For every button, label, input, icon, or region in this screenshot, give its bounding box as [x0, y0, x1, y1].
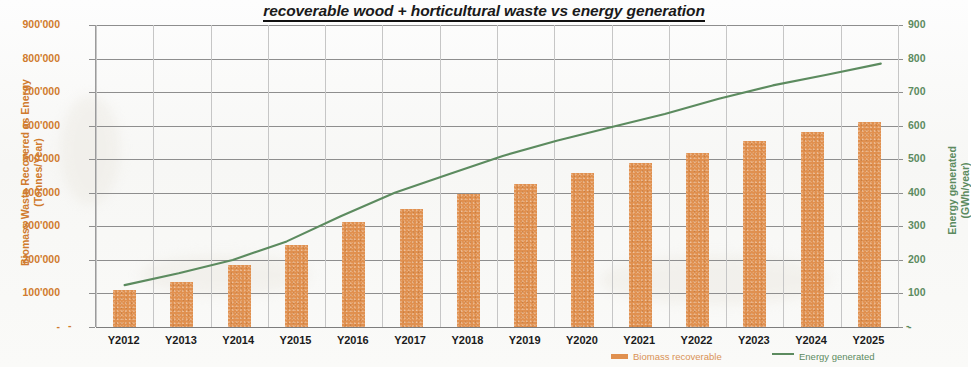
y-axis-left-tick-label: 800'000 — [22, 52, 60, 64]
plot-area — [95, 25, 899, 327]
bar-Y2019 — [514, 184, 537, 327]
y-axis-left-tick-mark — [89, 327, 95, 328]
x-axis-label-Y2024: Y2024 — [795, 334, 827, 346]
y-axis-right-tick-label: 800 — [908, 52, 926, 64]
bar-Y2013 — [170, 282, 193, 327]
y-axis-right-title-line1: Energy generated — [946, 146, 958, 235]
legend-swatch-line-icon — [772, 353, 794, 355]
y-axis-left-tick-label: 600'000 — [22, 119, 60, 131]
bar-Y2014 — [228, 265, 251, 327]
legend-swatch-bar-icon — [611, 354, 628, 359]
bar-Y2016 — [342, 222, 365, 327]
y-axis-right-zero-dash: - — [906, 319, 910, 331]
x-axis-label-Y2019: Y2019 — [509, 334, 541, 346]
y-axis-left-tick-label: 700'000 — [22, 85, 60, 97]
y-axis-left-tick-label: 400'000 — [22, 186, 60, 198]
y-axis-left-zero-dash: - — [68, 319, 72, 331]
bar-Y2020 — [571, 173, 594, 327]
y-axis-right-tick-label: 700 — [908, 85, 926, 97]
y-axis-left-tick-label: 100'000 — [22, 286, 60, 298]
y-axis-left-tick-label: 500'000 — [22, 152, 60, 164]
x-axis-label-Y2014: Y2014 — [222, 334, 254, 346]
chart-legend: Biomass recoverable Energy generated — [0, 350, 968, 364]
legend-label-energy: Energy generated — [799, 351, 875, 362]
y-axis-right-tick-label: 900 — [908, 18, 926, 30]
y-axis-right-tick-label: 100 — [908, 286, 926, 298]
y-axis-right-tick-mark — [897, 327, 903, 328]
legend-label-biomass: Biomass recoverable — [633, 351, 722, 362]
y-axis-left-tick-label: - — [57, 320, 61, 332]
chart-title: recoverable wood + horticultural waste v… — [0, 2, 968, 20]
y-axis-right-title-line2: (GWh/year) — [958, 106, 971, 276]
x-axis-label-Y2016: Y2016 — [337, 334, 369, 346]
y-axis-right-tick-label: 300 — [908, 219, 926, 231]
x-axis-label-Y2015: Y2015 — [280, 334, 312, 346]
x-axis-label-Y2025: Y2025 — [852, 334, 884, 346]
bar-Y2012 — [113, 290, 136, 327]
y-axis-right-title: Energy generated (GWh/year) — [946, 106, 971, 276]
bar-series — [96, 25, 898, 327]
bar-Y2024 — [801, 132, 824, 327]
legend-item-energy: Energy generated — [772, 350, 875, 362]
y-axis-left-tick-label: 900'000 — [22, 18, 60, 30]
y-axis-right-tick-label: 400 — [908, 186, 926, 198]
bar-Y2018 — [457, 194, 480, 327]
y-axis-left-tick-label: 200'000 — [22, 253, 60, 265]
y-axis-left-title-line1: Biomass Waste Recovered as Energy — [19, 79, 31, 266]
gridline-vertical — [898, 25, 899, 327]
bar-Y2025 — [858, 122, 881, 327]
x-axis-label-Y2022: Y2022 — [681, 334, 713, 346]
y-axis-right-tick-label: 500 — [908, 152, 926, 164]
bar-Y2017 — [400, 209, 423, 327]
gridline-horizontal — [96, 327, 898, 328]
bar-Y2015 — [285, 245, 308, 327]
bar-Y2023 — [743, 141, 766, 327]
y-axis-left-tick-label: 300'000 — [22, 219, 60, 231]
legend-item-biomass: Biomass recoverable — [611, 350, 722, 362]
x-axis-label-Y2023: Y2023 — [738, 334, 770, 346]
y-axis-right-tick-label: 200 — [908, 253, 926, 265]
x-axis-label-Y2018: Y2018 — [451, 334, 483, 346]
chart-title-text: recoverable wood + horticultural waste v… — [263, 2, 705, 22]
x-axis-label-Y2020: Y2020 — [566, 334, 598, 346]
bar-Y2021 — [629, 163, 652, 327]
y-axis-right-tick-label: 600 — [908, 119, 926, 131]
x-axis-label-Y2017: Y2017 — [394, 334, 426, 346]
x-axis-label-Y2021: Y2021 — [623, 334, 655, 346]
bar-Y2022 — [686, 153, 709, 327]
x-axis-label-Y2012: Y2012 — [108, 334, 140, 346]
x-axis-label-Y2013: Y2013 — [165, 334, 197, 346]
